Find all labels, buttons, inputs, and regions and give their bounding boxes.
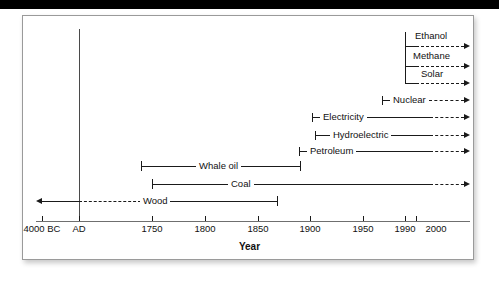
series-end-tick-wood bbox=[277, 196, 278, 206]
axis-tick-4000bc bbox=[42, 216, 43, 221]
axis-label-1750: 1750 bbox=[132, 224, 172, 234]
axis-tick-1900 bbox=[310, 216, 311, 221]
series-arrow-petroleum bbox=[464, 148, 470, 154]
axis-label-1800: 1800 bbox=[185, 224, 225, 234]
series-label-electricity: Electricity bbox=[320, 112, 367, 122]
series-line-methane-dashed bbox=[416, 66, 464, 67]
series-line-coal-solid bbox=[152, 184, 430, 185]
series-line-ethanol-solid bbox=[405, 46, 416, 47]
series-line-wood-dashed bbox=[79, 201, 141, 202]
series-arrow-electricity bbox=[464, 114, 470, 120]
axis-label-1950: 1950 bbox=[343, 224, 383, 234]
series-label-nuclear: Nuclear bbox=[390, 95, 429, 105]
axis-tick-2000 bbox=[416, 216, 417, 221]
series-label-whale-oil: Whale oil bbox=[196, 161, 241, 171]
ad-reference-line bbox=[79, 29, 80, 221]
series-arrow-ethanol bbox=[464, 43, 470, 49]
series-line-nuclear-dashed bbox=[429, 100, 464, 101]
series-label-wood: Wood bbox=[140, 196, 171, 206]
series-line-electricity-dashed bbox=[430, 117, 464, 118]
bracket-ethanol-methane-solar bbox=[405, 32, 406, 83]
energy-timeline-figure: 4000 BC AD 1750 1800 1850 1900 1950 1990… bbox=[0, 0, 499, 281]
axis-tick-1750 bbox=[152, 216, 153, 221]
series-label-hydroelectric: Hydroelectric bbox=[330, 130, 391, 140]
series-label-methane: Methane bbox=[410, 51, 453, 61]
series-line-wood-solid-right bbox=[170, 201, 277, 202]
series-arrow-nuclear bbox=[464, 97, 470, 103]
axis-label-1900: 1900 bbox=[290, 224, 330, 234]
axis-tick-1990 bbox=[405, 216, 406, 221]
axis-label-2000: 2000 bbox=[417, 224, 455, 234]
series-arrow-methane bbox=[464, 63, 470, 69]
axis-label-ad: AD bbox=[64, 224, 94, 234]
series-label-ethanol: Ethanol bbox=[412, 31, 450, 41]
series-label-coal: Coal bbox=[228, 179, 254, 189]
series-arrow-solar bbox=[464, 80, 470, 86]
axis-tick-1850 bbox=[258, 216, 259, 221]
axis-label-1850: 1850 bbox=[238, 224, 278, 234]
series-line-coal-dashed bbox=[430, 184, 464, 185]
series-end-tick-whale-oil bbox=[300, 161, 301, 171]
axis-tick-1800 bbox=[205, 216, 206, 221]
series-label-petroleum: Petroleum bbox=[307, 146, 356, 156]
series-label-solar: Solar bbox=[418, 69, 446, 79]
series-arrow-coal bbox=[464, 181, 470, 187]
series-line-solar-solid bbox=[405, 83, 416, 84]
axis-tick-ad bbox=[79, 216, 80, 221]
x-axis-line bbox=[36, 221, 470, 222]
series-arrow-hydroelectric bbox=[464, 132, 470, 138]
x-axis-title: Year bbox=[0, 241, 499, 252]
axis-label-4000bc: 4000 BC bbox=[14, 224, 70, 234]
series-line-petroleum-dashed bbox=[430, 151, 464, 152]
series-line-solar-dashed bbox=[416, 83, 464, 84]
series-line-hydroelectric-dashed bbox=[430, 135, 464, 136]
series-line-wood-solid-left bbox=[42, 201, 79, 202]
series-line-methane-solid bbox=[405, 66, 416, 67]
chart-drawing-layer: 4000 BC AD 1750 1800 1850 1900 1950 1990… bbox=[0, 0, 499, 281]
series-line-ethanol-dashed bbox=[416, 46, 464, 47]
axis-tick-1950 bbox=[363, 216, 364, 221]
